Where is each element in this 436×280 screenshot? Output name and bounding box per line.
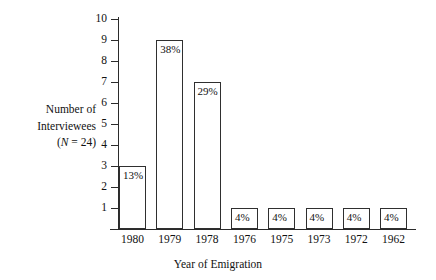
y-tick-mark — [111, 103, 118, 104]
y-tick-label: 5 — [85, 118, 107, 130]
x-tick-label-1976: 1976 — [224, 233, 264, 246]
y-tick-mark — [111, 187, 118, 188]
bar-value-label: 38% — [160, 43, 180, 55]
y-tick-label: 10 — [85, 13, 107, 25]
y-tick-label: 9 — [85, 34, 107, 46]
y-tick-mark — [111, 40, 118, 41]
y-tick-mark — [111, 19, 118, 20]
y-tick-label: 6 — [85, 97, 107, 109]
x-tick-label-1978: 1978 — [187, 233, 227, 246]
y-tick-label: 1 — [85, 202, 107, 214]
bar-1978: 29% — [194, 82, 221, 229]
x-tick-label-1972: 1972 — [336, 233, 376, 246]
bar-value-label: 4% — [347, 211, 362, 223]
y-tick-label: 8 — [85, 55, 107, 67]
y-tick-label: 7 — [85, 76, 107, 88]
bar-value-label: 13% — [123, 169, 143, 181]
bar-1975: 4% — [268, 208, 295, 229]
x-tick-label-1973: 1973 — [299, 233, 339, 246]
x-tick-label-1979: 1979 — [150, 233, 190, 246]
bar-value-label: 4% — [384, 211, 399, 223]
y-tick-mark — [111, 61, 118, 62]
bar-1979: 38% — [156, 40, 183, 229]
bar-1976: 4% — [231, 208, 258, 229]
bar-chart-figure: Number of Interviewees (N = 24) 12345678… — [0, 0, 436, 280]
y-tick-mark — [111, 124, 118, 125]
y-tick-mark — [111, 82, 118, 83]
x-tick-label-1980: 1980 — [113, 233, 153, 246]
bar-value-label: 4% — [235, 211, 250, 223]
bar-value-label: 4% — [272, 211, 287, 223]
bar-value-label: 29% — [198, 85, 218, 97]
y-axis-title: Number of Interviewees (N = 24) — [8, 101, 96, 151]
x-tick-label-1975: 1975 — [262, 233, 302, 246]
y-tick-label: 3 — [85, 160, 107, 172]
y-tick-mark — [111, 145, 118, 146]
y-tick-label: 2 — [85, 181, 107, 193]
bar-1973: 4% — [306, 208, 333, 229]
x-axis-line — [110, 229, 416, 230]
y-axis-title-line-3: (N = 24) — [8, 134, 96, 151]
bar-value-label: 4% — [310, 211, 325, 223]
bar-1962: 4% — [380, 208, 407, 229]
y-axis-title-line-1: Number of — [8, 101, 96, 118]
bar-1980: 13% — [119, 166, 146, 229]
x-tick-label-1962: 1962 — [374, 233, 414, 246]
y-tick-mark — [111, 208, 118, 209]
y-tick-label: 4 — [85, 139, 107, 151]
x-axis-title: Year of Emigration — [0, 258, 436, 270]
y-tick-mark — [111, 166, 118, 167]
y-axis-title-line-2: Interviewees — [8, 118, 96, 135]
bar-1972: 4% — [343, 208, 370, 229]
sample-size-symbol: N — [61, 136, 69, 148]
